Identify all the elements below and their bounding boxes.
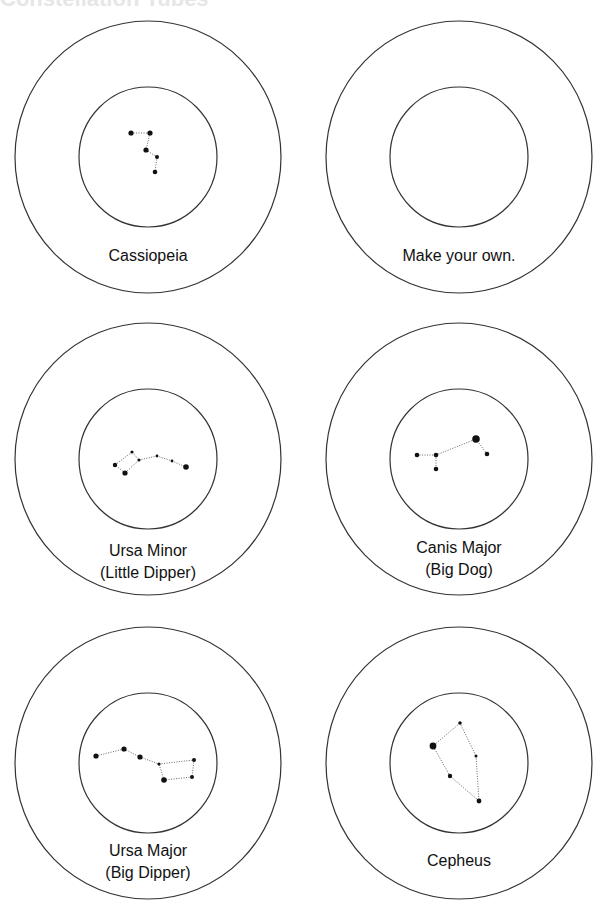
inner-circle [390, 389, 528, 529]
template-canis-major: Canis Major(Big Dog) [326, 323, 592, 595]
inner-circle [79, 693, 217, 833]
star-icon [137, 458, 140, 461]
star-icon [122, 470, 127, 475]
constellation-line [140, 757, 159, 764]
constellation-line [433, 723, 460, 746]
star-icon [485, 452, 490, 457]
template-ursa-major: Ursa Major(Big Dipper) [15, 627, 281, 899]
constellation-label: Make your own. [403, 247, 516, 264]
star-icon [171, 460, 174, 463]
constellation-line [460, 723, 476, 756]
template-cassiopeia: Cassiopeia [15, 21, 281, 293]
star-icon [430, 743, 437, 750]
constellation-line [192, 760, 194, 777]
star-icon [183, 464, 189, 470]
constellation-label: (Big Dog) [425, 561, 493, 578]
star-icon [472, 435, 480, 443]
star-icon [458, 721, 462, 725]
star-icon [434, 467, 439, 472]
constellation-line [159, 760, 194, 764]
constellation-sheet: CassiopeiaMake your own.Ursa Minor(Littl… [0, 0, 601, 914]
inner-circle [79, 389, 217, 529]
star-icon [153, 170, 158, 175]
constellation-label: Cassiopeia [108, 247, 187, 264]
star-icon [448, 774, 452, 778]
constellation-line [433, 746, 450, 776]
constellation-line [157, 456, 172, 461]
constellation-line [124, 749, 140, 757]
star-icon [161, 777, 167, 783]
constellation-line [115, 452, 132, 465]
constellation-line [96, 749, 124, 756]
star-icon [192, 758, 196, 762]
template-make-your-own: Make your own. [326, 21, 592, 293]
star-icon [415, 453, 420, 458]
star-icon [157, 762, 160, 765]
star-icon [128, 130, 133, 135]
constellation-label: Ursa Minor [109, 542, 188, 559]
inner-circle [390, 87, 528, 227]
star-icon [113, 463, 117, 467]
star-icon [477, 799, 482, 804]
constellation-line [450, 776, 479, 801]
constellation-line [125, 460, 139, 473]
star-icon [155, 155, 159, 159]
constellation-line [436, 439, 476, 455]
star-icon [475, 755, 478, 758]
star-icon [137, 754, 142, 759]
constellation-line [476, 756, 479, 801]
constellation-label: Cepheus [427, 852, 491, 869]
star-icon [121, 746, 126, 751]
template-cepheus: Cepheus [326, 627, 592, 899]
constellation-label: Canis Major [416, 539, 502, 556]
constellation-line [164, 777, 192, 780]
star-icon [190, 775, 194, 779]
constellation-label: Ursa Major [109, 842, 188, 859]
star-icon [143, 147, 148, 152]
inner-circle [390, 693, 528, 833]
star-icon [156, 455, 159, 458]
star-icon [130, 450, 133, 453]
inner-circle [79, 87, 217, 227]
constellation-line [139, 456, 157, 460]
star-icon [147, 130, 152, 135]
star-icon [434, 453, 439, 458]
star-icon [93, 753, 98, 758]
constellation-label: (Big Dipper) [105, 864, 190, 881]
constellation-line [146, 133, 150, 150]
constellation-label: (Little Dipper) [100, 564, 196, 581]
template-ursa-minor: Ursa Minor(Little Dipper) [15, 323, 281, 595]
